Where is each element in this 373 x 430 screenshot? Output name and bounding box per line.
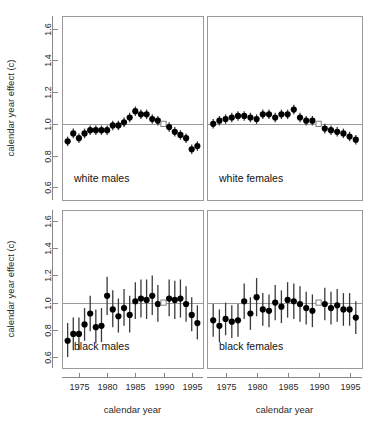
data-point [260, 111, 266, 117]
x-axis-title: calendar year [104, 404, 162, 415]
data-point [340, 130, 346, 136]
figure-container: white maleswhite femalesblack malesblack… [0, 0, 373, 430]
data-point [353, 315, 359, 321]
data-point [309, 118, 315, 124]
data-point [266, 111, 272, 117]
x-axis-title: calendar year [256, 404, 314, 415]
x-tick-label: 1980 [247, 382, 267, 392]
data-point [210, 121, 216, 127]
x-axis-right: 19751980198519901995calendar year [207, 373, 362, 415]
data-point [70, 130, 76, 136]
data-point [309, 308, 315, 314]
data-point [155, 301, 161, 307]
data-point [87, 127, 93, 133]
data-point [65, 138, 71, 144]
x-tick-label: 1975 [216, 382, 236, 392]
data-point [87, 310, 93, 316]
data-point [210, 317, 216, 323]
y-tick-label: 1.2 [43, 269, 53, 282]
panel-black-females: black females [207, 211, 363, 369]
data-point [121, 305, 127, 311]
y-tick-label: 1.6 [43, 23, 53, 36]
data-point [121, 119, 127, 125]
y-axis-top: 0.60.81.01.21.41.6calendar year effect (… [5, 16, 58, 200]
x-tick-label: 1990 [154, 382, 174, 392]
data-point [334, 302, 340, 308]
data-point [223, 116, 229, 122]
plot-render-root: white maleswhite femalesblack malesblack… [5, 16, 363, 415]
y-tick-label: 0.6 [43, 351, 53, 364]
x-tick-label: 1985 [278, 382, 298, 392]
panel-black-males: black males [62, 211, 204, 369]
y-axis-bottom: 0.60.81.01.21.41.6calendar year effect (… [5, 210, 58, 368]
data-point [104, 127, 110, 133]
data-point [98, 127, 104, 133]
data-point [328, 305, 334, 311]
data-point [216, 323, 222, 329]
data-point [183, 301, 189, 307]
data-point [235, 113, 241, 119]
y-tick-label: 1.2 [43, 86, 53, 99]
data-point [98, 323, 104, 329]
data-point [81, 130, 87, 136]
y-tick-label: 0.8 [43, 324, 53, 337]
data-point [297, 114, 303, 120]
data-point [272, 114, 278, 120]
data-point [138, 111, 144, 117]
data-point [81, 321, 87, 327]
data-point [285, 111, 291, 117]
data-point [76, 135, 82, 141]
panel-label-white-males: white males [73, 172, 129, 184]
data-point [194, 320, 200, 326]
y-tick-label: 1.4 [43, 54, 53, 67]
data-point [132, 108, 138, 114]
data-point [297, 301, 303, 307]
data-point [235, 317, 241, 323]
data-point [247, 310, 253, 316]
x-tick-label: 1995 [340, 382, 360, 392]
data-point [322, 301, 328, 307]
data-point [127, 312, 133, 318]
data-point [291, 298, 297, 304]
y-tick-label: 1.4 [43, 242, 53, 255]
data-point [241, 113, 247, 119]
data-point [266, 308, 272, 314]
x-tick-label: 1985 [125, 382, 145, 392]
data-point [254, 294, 260, 300]
data-point [347, 133, 353, 139]
data-point [115, 122, 121, 128]
data-point [285, 297, 291, 303]
x-tick-label: 1995 [182, 382, 202, 392]
panel-label-black-males: black males [74, 340, 129, 352]
data-point [247, 114, 253, 120]
x-tick-label: 1975 [69, 382, 89, 392]
data-point [149, 116, 155, 122]
reference-point [316, 300, 321, 305]
y-tick-label: 1.0 [43, 297, 53, 310]
y-axis-title: calendar year effect (c) [5, 60, 16, 157]
data-point [303, 118, 309, 124]
data-point [334, 129, 340, 135]
data-point [172, 129, 178, 135]
data-point [260, 306, 266, 312]
panel-white-females: white females [207, 17, 363, 201]
data-point [115, 313, 121, 319]
data-point [70, 331, 76, 337]
x-tick-label: 1990 [309, 382, 329, 392]
data-point [172, 297, 178, 303]
data-point [189, 312, 195, 318]
data-point [340, 306, 346, 312]
panel-label-white-females: white females [218, 172, 283, 184]
data-point [149, 293, 155, 299]
panel-white-males: white males [62, 17, 204, 201]
data-point [110, 306, 116, 312]
data-point [155, 118, 161, 124]
data-point [93, 127, 99, 133]
data-point [241, 298, 247, 304]
data-point [127, 114, 133, 120]
x-axis-left: 19751980198519901995calendar year [62, 373, 203, 415]
reference-point [161, 300, 166, 305]
data-point [322, 126, 328, 132]
calendar-year-effect-panel-chart: white maleswhite femalesblack malesblack… [0, 0, 373, 430]
y-tick-label: 0.6 [43, 181, 53, 194]
